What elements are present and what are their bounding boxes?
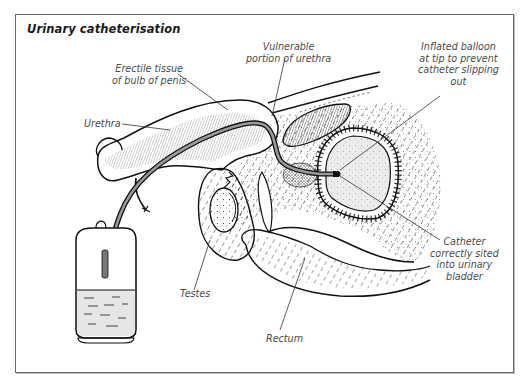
label-inflated-balloon: Inflated balloon at tip to prevent cathe… — [418, 41, 499, 87]
label-testes: Testes — [180, 288, 210, 300]
label-erectile-tissue: Erectile tissue of bulb of penis — [112, 63, 186, 86]
drainage-bag — [76, 221, 136, 343]
label-rectum: Rectum — [266, 333, 303, 345]
label-vulnerable-urethra: Vulnerable portion of urethra — [246, 41, 331, 64]
label-urethra: Urethra — [84, 118, 121, 130]
label-catheter-sited: Catheter correctly sited into urinary bl… — [430, 236, 499, 282]
